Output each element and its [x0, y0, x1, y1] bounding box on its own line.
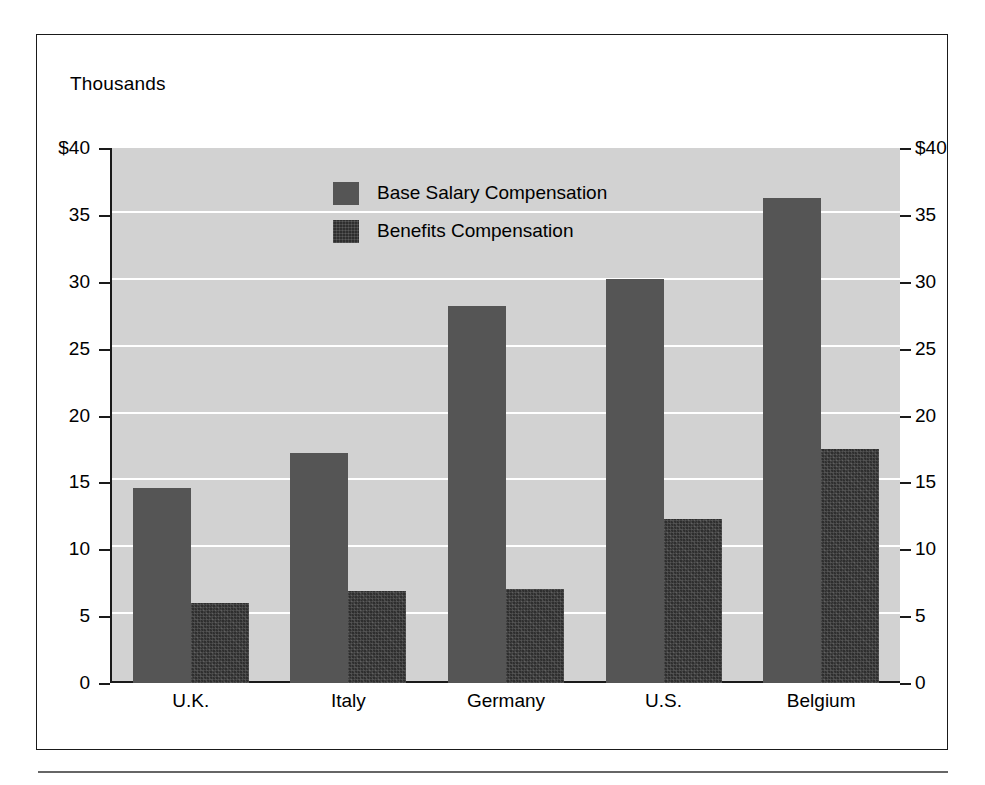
- y-axis-tick-label-left: $40: [30, 138, 90, 157]
- y-axis-tick-label-left: 25: [30, 339, 90, 358]
- chart-figure: Thousands $4035302520151050 $40353025201…: [0, 0, 985, 785]
- chart-units-caption: Thousands: [70, 73, 166, 95]
- y-axis-tick-label-right: 35: [915, 205, 975, 224]
- y-axis-tick-label-right: 15: [915, 472, 975, 491]
- bar-group: [763, 148, 879, 683]
- y-axis-tick-label-left: 5: [30, 606, 90, 625]
- x-axis-category-label: Italy: [270, 690, 428, 712]
- y-tick-left: [99, 416, 110, 418]
- y-axis-tick-label-right: 30: [915, 272, 975, 291]
- y-axis-tick-label-left: 10: [30, 539, 90, 558]
- y-tick-right: [900, 282, 911, 284]
- bar: [448, 306, 506, 683]
- bar: [763, 198, 821, 684]
- y-tick-right: [900, 683, 911, 685]
- y-tick-left: [99, 282, 110, 284]
- bar-group: [133, 148, 249, 683]
- y-axis-tick-label-right: 10: [915, 539, 975, 558]
- y-tick-right: [900, 549, 911, 551]
- y-tick-right: [900, 416, 911, 418]
- y-tick-left: [99, 349, 110, 351]
- bar: [606, 279, 664, 683]
- y-tick-right: [900, 482, 911, 484]
- footer-rule: [38, 771, 948, 773]
- y-axis-right: $4035302520151050: [915, 148, 975, 683]
- y-tick-left: [99, 148, 110, 150]
- y-tick-right: [900, 148, 911, 150]
- y-axis-tick-label-left: 0: [30, 673, 90, 692]
- bar-group: [606, 148, 722, 683]
- legend-label: Base Salary Compensation: [377, 182, 607, 204]
- x-axis-category-label: U.S.: [585, 690, 743, 712]
- y-tick-right: [900, 215, 911, 217]
- y-tick-right: [900, 616, 911, 618]
- legend-swatch-icon: [333, 220, 359, 243]
- y-axis-tick-label-right: 5: [915, 606, 975, 625]
- x-axis-category-label: Germany: [427, 690, 585, 712]
- y-axis-tick-label-right: 0: [915, 673, 975, 692]
- bar: [133, 488, 191, 683]
- legend-swatch-icon: [333, 182, 359, 205]
- y-axis-tick-label-left: 15: [30, 472, 90, 491]
- y-axis-tick-label-right: 25: [915, 339, 975, 358]
- x-axis-category-label: Belgium: [742, 690, 900, 712]
- bar: [348, 591, 406, 683]
- chart-legend: Base Salary CompensationBenefits Compens…: [333, 176, 607, 252]
- bar: [191, 603, 249, 683]
- legend-item: Base Salary Compensation: [333, 176, 607, 210]
- x-axis-category-labels: U.K.ItalyGermanyU.S.Belgium: [112, 690, 900, 720]
- y-tick-left: [99, 683, 110, 685]
- bar: [821, 449, 879, 683]
- y-axis-tick-label-left: 35: [30, 205, 90, 224]
- y-axis-tick-label-right: 20: [915, 406, 975, 425]
- y-tick-left: [99, 549, 110, 551]
- y-axis-tick-label-left: 20: [30, 406, 90, 425]
- y-tick-left: [99, 215, 110, 217]
- y-tick-left: [99, 482, 110, 484]
- x-axis-category-label: U.K.: [112, 690, 270, 712]
- y-axis-left: $4035302520151050: [30, 148, 90, 683]
- y-axis-tick-label-left: 30: [30, 272, 90, 291]
- bar: [290, 453, 348, 683]
- y-tick-left: [99, 616, 110, 618]
- bar: [664, 519, 722, 684]
- y-tick-right: [900, 349, 911, 351]
- y-axis-tick-label-right: $40: [915, 138, 975, 157]
- legend-item: Benefits Compensation: [333, 214, 607, 248]
- bar: [506, 589, 564, 683]
- legend-label: Benefits Compensation: [377, 220, 573, 242]
